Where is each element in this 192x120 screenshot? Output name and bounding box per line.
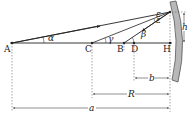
angle-arc-gamma <box>105 38 106 43</box>
label-beta: β <box>140 29 146 39</box>
ray-A-arrow <box>12 26 100 43</box>
label-B: B <box>117 44 124 54</box>
point-A <box>11 42 13 44</box>
label-alpha: α <box>48 33 54 43</box>
label-epsilon-2: ε <box>156 9 161 19</box>
concave-mirror <box>170 1 183 82</box>
angle-arc-epsilon <box>154 19 155 22</box>
label-H: H <box>163 44 171 54</box>
angle-arc-alpha <box>43 37 44 43</box>
label-a: a <box>89 103 94 113</box>
label-D: D <box>131 44 138 54</box>
point-P <box>169 11 171 13</box>
label-b: b <box>149 73 155 83</box>
label-A: A <box>3 44 11 54</box>
label-gamma: γ <box>108 34 114 44</box>
label-C: C <box>85 44 92 54</box>
label-h: h <box>182 22 188 32</box>
label-R: R <box>127 89 135 99</box>
mirror-diagram: A C B D H α γ β ε ε h b R a <box>0 0 192 120</box>
